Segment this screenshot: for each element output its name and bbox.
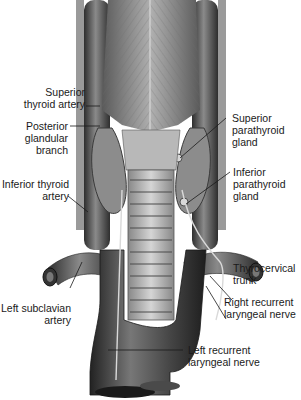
label-inferior-parathyroid-gland: Inferior parathyroid gland	[233, 166, 286, 202]
label-line: Superior	[24, 86, 85, 98]
label-left-subclavian-artery: Left subclavian artery	[1, 302, 71, 326]
label-line: gland	[232, 136, 285, 148]
label-line: thyroid artery	[24, 98, 85, 110]
label-line: trunk	[233, 274, 295, 286]
label-thyrocervical-trunk: Thyrocervical trunk	[233, 262, 295, 286]
label-line: glandular	[25, 132, 68, 144]
pharyngeal-muscle	[102, 0, 200, 132]
label-line: Left subclavian	[1, 302, 71, 314]
label-superior-parathyroid-gland: Superior parathyroid gland	[232, 112, 285, 148]
label-line: branch	[25, 144, 68, 156]
label-line: Right recurrent	[224, 296, 296, 308]
label-line: Superior	[232, 112, 285, 124]
label-line: artery	[2, 190, 69, 202]
label-line: laryngeal nerve	[188, 356, 260, 368]
label-line: Left recurrent	[188, 344, 260, 356]
label-right-recurrent-laryngeal-nerve: Right recurrent laryngeal nerve	[224, 296, 296, 320]
label-line: parathyroid	[233, 178, 286, 190]
label-superior-thyroid-artery: Superior thyroid artery	[24, 86, 85, 110]
label-line: Posterior	[25, 120, 68, 132]
label-line: artery	[1, 314, 71, 326]
label-posterior-glandular-branch: Posterior glandular branch	[25, 120, 68, 156]
label-inferior-thyroid-artery: Inferior thyroid artery	[2, 178, 69, 202]
trachea	[128, 170, 174, 320]
label-line: gland	[233, 190, 286, 202]
label-line: parathyroid	[232, 124, 285, 136]
label-left-recurrent-laryngeal-nerve: Left recurrent laryngeal nerve	[188, 344, 260, 368]
label-line: Inferior thyroid	[2, 178, 69, 190]
label-line: laryngeal nerve	[224, 308, 296, 320]
label-line: Thyrocervical	[233, 262, 295, 274]
label-line: Inferior	[233, 166, 286, 178]
